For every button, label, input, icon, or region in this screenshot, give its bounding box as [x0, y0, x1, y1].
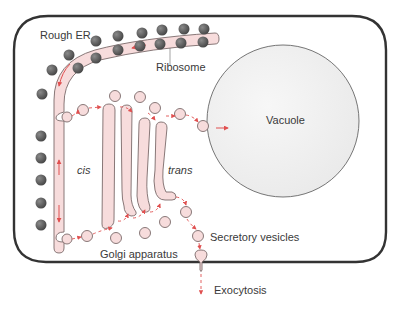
golgi-apparatus [102, 104, 176, 229]
label-trans: trans [168, 164, 193, 176]
label-golgi-apparatus: Golgi apparatus [100, 248, 178, 260]
flow-trans [176, 197, 186, 205]
flow-lower-3 [118, 214, 128, 221]
flow-secretory [187, 219, 196, 229]
label-ribosome: Ribosome [156, 61, 206, 73]
flow-lower-5 [150, 204, 160, 212]
flow-upper-4 [148, 113, 155, 120]
flow-lower-2 [93, 228, 112, 234]
flow-secretory-2 [199, 243, 200, 249]
label-cis: cis [77, 164, 91, 176]
flow-upper-2 [89, 107, 101, 108]
flow-upper [72, 110, 78, 116]
flow-upper-6 [186, 115, 198, 122]
label-vacuole: Vacuole [266, 114, 305, 126]
golgi-secretory-pathway-diagram: Rough ER Ribosome Vacuole cis trans Golg… [0, 0, 399, 310]
label-exocytosis: Exocytosis [214, 284, 267, 296]
label-rough-er: Rough ER [40, 29, 91, 41]
label-secretory-vesicles: Secretory vesicles [210, 231, 300, 243]
flow-lower [72, 237, 81, 239]
